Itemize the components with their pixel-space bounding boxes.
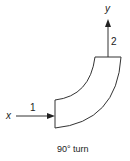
inlet-station-label: 1 [30,103,36,113]
x-axis-label: x [6,111,11,121]
diagram-caption: 90° turn [57,145,89,154]
elbow-figure [0,0,130,161]
elbow-bend-shape [55,57,121,128]
outlet-arrowhead-icon [105,19,111,27]
inlet-arrowhead-icon [47,113,55,119]
y-axis-label: y [105,4,110,14]
outlet-station-label: 2 [111,37,117,47]
pipe-bend-diagram: x 1 y 2 90° turn [0,0,130,161]
